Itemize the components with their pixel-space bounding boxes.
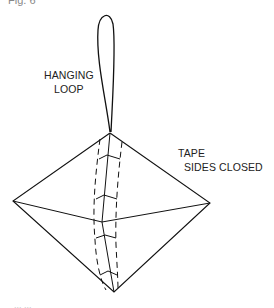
tape-right-edge <box>116 142 122 290</box>
diamond-ornament-diagram <box>0 0 274 308</box>
hanging-loop <box>98 15 115 132</box>
sides-closed-label: SIDES CLOSED <box>184 160 263 174</box>
middle-crease <box>13 201 210 222</box>
hanging-loop-label: HANGING LOOP <box>44 68 94 96</box>
tape-left-edge <box>94 139 106 290</box>
hanging-label-line1: HANGING <box>44 68 94 82</box>
bottom-caption: ... ... <box>14 300 32 308</box>
hanging-label-line2: LOOP <box>44 82 94 96</box>
tape-label: TAPE <box>178 146 205 160</box>
